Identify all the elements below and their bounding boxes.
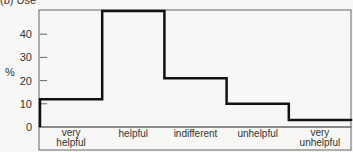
y-axis-label: % — [5, 66, 15, 78]
y-tick-label: 30 — [20, 51, 32, 63]
x-category-label: helpful — [56, 137, 85, 148]
y-tick-label: 20 — [20, 75, 32, 87]
y-axis: 010203040 — [20, 28, 47, 133]
y-tick-label: 40 — [20, 28, 32, 40]
x-category-label: unhelpful — [300, 137, 341, 148]
step-line — [40, 11, 351, 127]
plot-frame — [39, 10, 351, 127]
y-tick-label: 10 — [20, 98, 32, 110]
step-chart: (b) Use 010203040 % veryhelpfulhelpfulin… — [0, 0, 353, 152]
x-axis-labels: veryhelpfulhelpfulindifferentunhelpfulve… — [56, 127, 340, 148]
x-category-label: unhelpful — [237, 128, 278, 139]
x-category-label: helpful — [119, 128, 148, 139]
x-category-label: indifferent — [174, 128, 218, 139]
chart-title: (b) Use — [0, 0, 36, 6]
y-tick-label: 0 — [26, 121, 32, 133]
